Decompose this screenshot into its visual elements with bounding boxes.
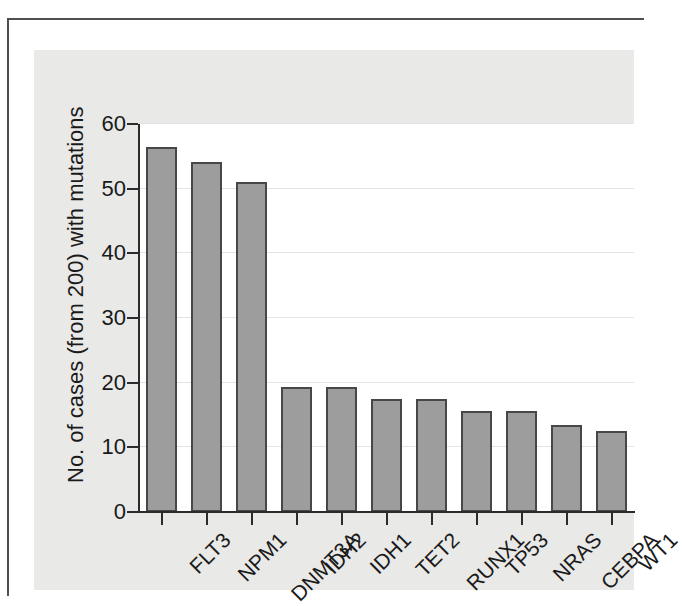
y-tick-mark — [127, 511, 138, 513]
x-tick-mark — [296, 513, 298, 525]
bar — [461, 411, 492, 512]
bar — [416, 399, 447, 512]
y-tick-label: 60 — [70, 113, 126, 135]
bar — [146, 147, 177, 512]
y-tick-mark — [127, 188, 138, 190]
bar — [191, 162, 222, 512]
y-tick-mark — [127, 123, 138, 125]
x-tick-mark — [386, 513, 388, 525]
x-tick-mark — [521, 513, 523, 525]
figure-frame: No. of cases (from 200) with mutations 0… — [7, 18, 644, 596]
x-tick-label-text: IDH1 — [365, 528, 416, 579]
bar — [551, 425, 582, 512]
x-tick-mark — [611, 513, 613, 525]
y-tick-label-group: 0102030405060 — [64, 50, 126, 590]
y-tick-label: 20 — [70, 372, 126, 394]
x-tick-mark — [206, 513, 208, 525]
y-tick-label: 40 — [70, 242, 126, 264]
bar — [371, 399, 402, 512]
x-tick-label-text: FLT3 — [184, 528, 235, 579]
gridline — [139, 123, 634, 124]
y-tick-label: 10 — [70, 436, 126, 458]
x-tick-mark — [431, 513, 433, 525]
x-tick-label: NPM1 — [233, 528, 291, 586]
x-tick-mark — [341, 513, 343, 525]
chart-panel: No. of cases (from 200) with mutations 0… — [34, 50, 634, 590]
x-tick-mark — [161, 513, 163, 525]
x-tick-mark — [476, 513, 478, 525]
x-tick-mark — [251, 513, 253, 525]
x-tick-label: IDH1 — [365, 528, 416, 579]
y-axis-line — [138, 124, 140, 513]
bar — [236, 182, 267, 512]
plot-area — [139, 124, 634, 512]
bar — [326, 387, 357, 512]
x-tick-label-text: TET2 — [411, 528, 464, 581]
x-tick-label: FLT3 — [184, 528, 235, 579]
x-tick-label-text: NPM1 — [233, 528, 291, 586]
y-tick-mark — [127, 446, 138, 448]
bar — [596, 431, 627, 512]
y-tick-label: 30 — [70, 307, 126, 329]
bar — [281, 387, 312, 512]
y-tick-mark — [127, 317, 138, 319]
y-tick-mark — [127, 252, 138, 254]
bar — [506, 411, 537, 512]
y-tick-mark — [127, 382, 138, 384]
y-tick-label: 50 — [70, 178, 126, 200]
x-tick-mark — [566, 513, 568, 525]
y-tick-label: 0 — [70, 501, 126, 523]
x-tick-label: TET2 — [411, 528, 464, 581]
